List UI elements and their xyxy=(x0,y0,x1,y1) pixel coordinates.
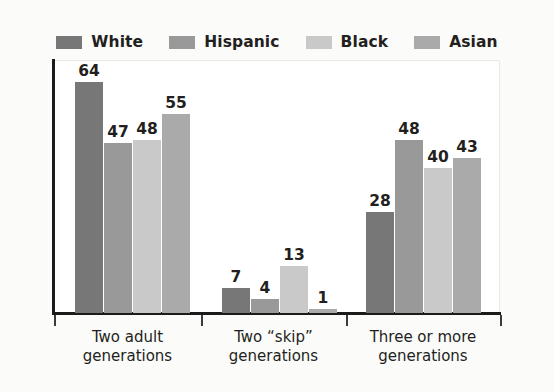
legend-item-white[interactable]: White xyxy=(56,33,143,51)
category-label: Three or moregenerations xyxy=(346,328,500,366)
legend-swatch-asian-icon xyxy=(414,36,440,49)
bar-value-label: 48 xyxy=(127,120,167,138)
bar-value-label: 43 xyxy=(447,138,487,156)
bar[interactable] xyxy=(366,212,394,313)
bar[interactable] xyxy=(162,114,190,313)
bar[interactable] xyxy=(75,82,103,313)
legend-item-black[interactable]: Black xyxy=(306,33,389,51)
bar[interactable] xyxy=(424,168,452,313)
category-tick xyxy=(346,315,348,326)
legend-swatch-black-icon xyxy=(306,36,332,49)
legend-item-asian[interactable]: Asian xyxy=(414,33,498,51)
bar[interactable] xyxy=(453,158,481,313)
bar-chart: White Hispanic Black Asian 6447485574131… xyxy=(0,0,554,392)
bar-value-label: 28 xyxy=(360,192,400,210)
chart-legend: White Hispanic Black Asian xyxy=(0,30,554,54)
legend-item-hispanic[interactable]: Hispanic xyxy=(169,33,279,51)
bar[interactable] xyxy=(309,309,337,313)
bar[interactable] xyxy=(251,299,279,313)
legend-swatch-hispanic-icon xyxy=(169,36,195,49)
bar[interactable] xyxy=(104,143,132,313)
bar-value-label: 64 xyxy=(69,62,109,80)
legend-swatch-white-icon xyxy=(56,36,82,49)
bar[interactable] xyxy=(133,140,161,313)
bars-layer: 644748557413128484043 xyxy=(54,60,500,313)
legend-label-white: White xyxy=(91,33,143,51)
bar-value-label: 55 xyxy=(156,94,196,112)
category-tick xyxy=(201,315,203,326)
category-label: Two “skip”generations xyxy=(201,328,346,366)
bar-value-label: 1 xyxy=(303,289,343,307)
category-label: Two adultgenerations xyxy=(54,328,201,366)
bar-value-label: 13 xyxy=(274,246,314,264)
legend-label-asian: Asian xyxy=(449,33,498,51)
legend-label-hispanic: Hispanic xyxy=(204,33,279,51)
bar-value-label: 4 xyxy=(245,279,285,297)
category-tick xyxy=(54,315,56,326)
category-tick xyxy=(500,315,502,326)
legend-label-black: Black xyxy=(341,33,389,51)
bar-value-label: 48 xyxy=(389,120,429,138)
